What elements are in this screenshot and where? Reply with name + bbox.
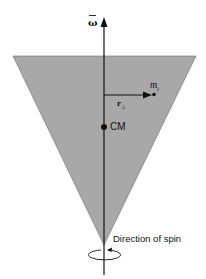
mass-point — [152, 93, 156, 97]
r-perp-label: r⊥ — [117, 99, 126, 110]
omega-arrowhead-icon — [101, 17, 108, 27]
center-of-mass-point — [101, 124, 107, 130]
spin-arrowhead-icon — [107, 248, 112, 253]
omega-vector-bar — [89, 15, 96, 16]
spin-direction-label: Direction of spin — [113, 234, 181, 244]
r-perp-label-sub: ⊥ — [121, 104, 126, 110]
omega-label: ω — [88, 18, 98, 28]
mass-label: mi — [150, 80, 159, 92]
center-of-mass-label: CM — [110, 122, 126, 132]
mass-label-sub: i — [157, 86, 159, 92]
